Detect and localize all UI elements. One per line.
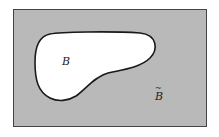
complement-tilde: ~ [155,84,162,93]
set-b-label: B [61,55,70,68]
venn-diagram: B B ~ [0,0,219,137]
